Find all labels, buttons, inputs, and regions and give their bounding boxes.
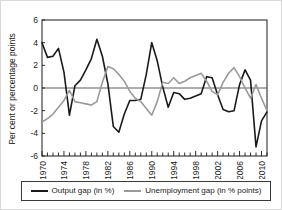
- chart-area: Per cent or percentage points -6-4-20246…: [1, 1, 282, 179]
- x-tick-label: 1970: [38, 161, 48, 179]
- x-tick-label: 2006: [235, 161, 245, 179]
- y-axis-title-group: Per cent or percentage points: [7, 33, 17, 145]
- legend-item-label: Unemployment gap (in % points): [145, 186, 261, 196]
- legend-item: Output gap (in %): [31, 186, 115, 196]
- line-chart: Per cent or percentage points -6-4-20246…: [1, 1, 282, 179]
- x-tick-label: 1974: [59, 161, 69, 179]
- legend-item-label: Output gap (in %): [52, 186, 115, 196]
- x-tick-label: 2010: [257, 161, 267, 179]
- y-tick-label: 4: [33, 38, 38, 48]
- x-tick-label: 2002: [213, 161, 223, 179]
- chart-legend: Output gap (in %) Unemployment gap (in %…: [21, 181, 271, 201]
- y-tick-label: 0: [33, 83, 38, 93]
- figure-container: Per cent or percentage points -6-4-20246…: [0, 0, 282, 210]
- y-axis-ticks: -6-4-20246: [30, 15, 45, 161]
- series-line: [42, 39, 267, 147]
- line-swatch-icon: [124, 190, 141, 192]
- x-tick-label: 1982: [103, 161, 113, 179]
- y-tick-label: 2: [33, 60, 38, 70]
- data-series-group: [42, 39, 267, 147]
- y-tick-label: 6: [33, 15, 38, 25]
- y-tick-label: -2: [30, 106, 38, 116]
- line-swatch-icon: [31, 190, 48, 192]
- y-tick-label: -6: [30, 151, 38, 161]
- legend-item: Unemployment gap (in % points): [124, 186, 261, 196]
- x-tick-label: 1994: [169, 161, 179, 179]
- x-tick-label: 1990: [147, 161, 157, 179]
- x-tick-label: 1998: [191, 161, 201, 179]
- x-axis-ticks: 1970197419781982198619901994199820022006…: [38, 151, 268, 179]
- x-tick-label: 1978: [81, 161, 91, 179]
- x-tick-label: 1986: [125, 161, 135, 179]
- series-line: [42, 66, 267, 122]
- y-axis-title: Per cent or percentage points: [7, 33, 17, 145]
- y-tick-label: -4: [30, 128, 38, 138]
